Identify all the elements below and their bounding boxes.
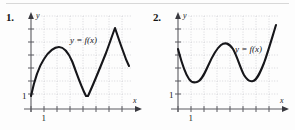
graph-1-x-axis-label: x xyxy=(132,96,137,105)
problem-1-number: 1. xyxy=(6,11,14,23)
figure-page: 1. xyxy=(0,0,295,130)
problem-2-number: 2. xyxy=(153,11,161,23)
graph-2-x-axis-arrow xyxy=(282,106,289,112)
problem-2: 2. xyxy=(147,0,295,130)
graph-2-y-axis-label: y xyxy=(182,11,187,20)
graph-2-y-axis-arrow xyxy=(175,12,181,19)
graph-1-x-tick-label: 1 xyxy=(42,113,47,123)
problem-2-figure: y x 1 1 y = f(x) xyxy=(165,10,293,126)
graph-2-svg: y x 1 1 y = f(x) xyxy=(165,10,293,126)
graph-1-x-axis-arrow xyxy=(135,106,142,112)
graph-1-function-label: y = f(x) xyxy=(69,35,97,45)
problem-1: 1. xyxy=(0,0,148,130)
graph-2-x-tick-label: 1 xyxy=(189,113,194,123)
graph-2-grid xyxy=(178,16,278,109)
graph-2-y-tick-label: 1 xyxy=(169,90,174,100)
graph-1-y-axis-arrow xyxy=(28,12,34,19)
graph-1-y-axis-label: y xyxy=(35,11,40,20)
graph-2-x-axis-label: x xyxy=(279,96,284,105)
graph-1-svg: y x 1 1 y = f(x) xyxy=(18,10,146,126)
graph-1-y-tick-label: 1 xyxy=(22,91,27,101)
problem-1-figure: y x 1 1 y = f(x) xyxy=(18,10,146,126)
graph-2-function-label: y = f(x) xyxy=(234,44,262,54)
